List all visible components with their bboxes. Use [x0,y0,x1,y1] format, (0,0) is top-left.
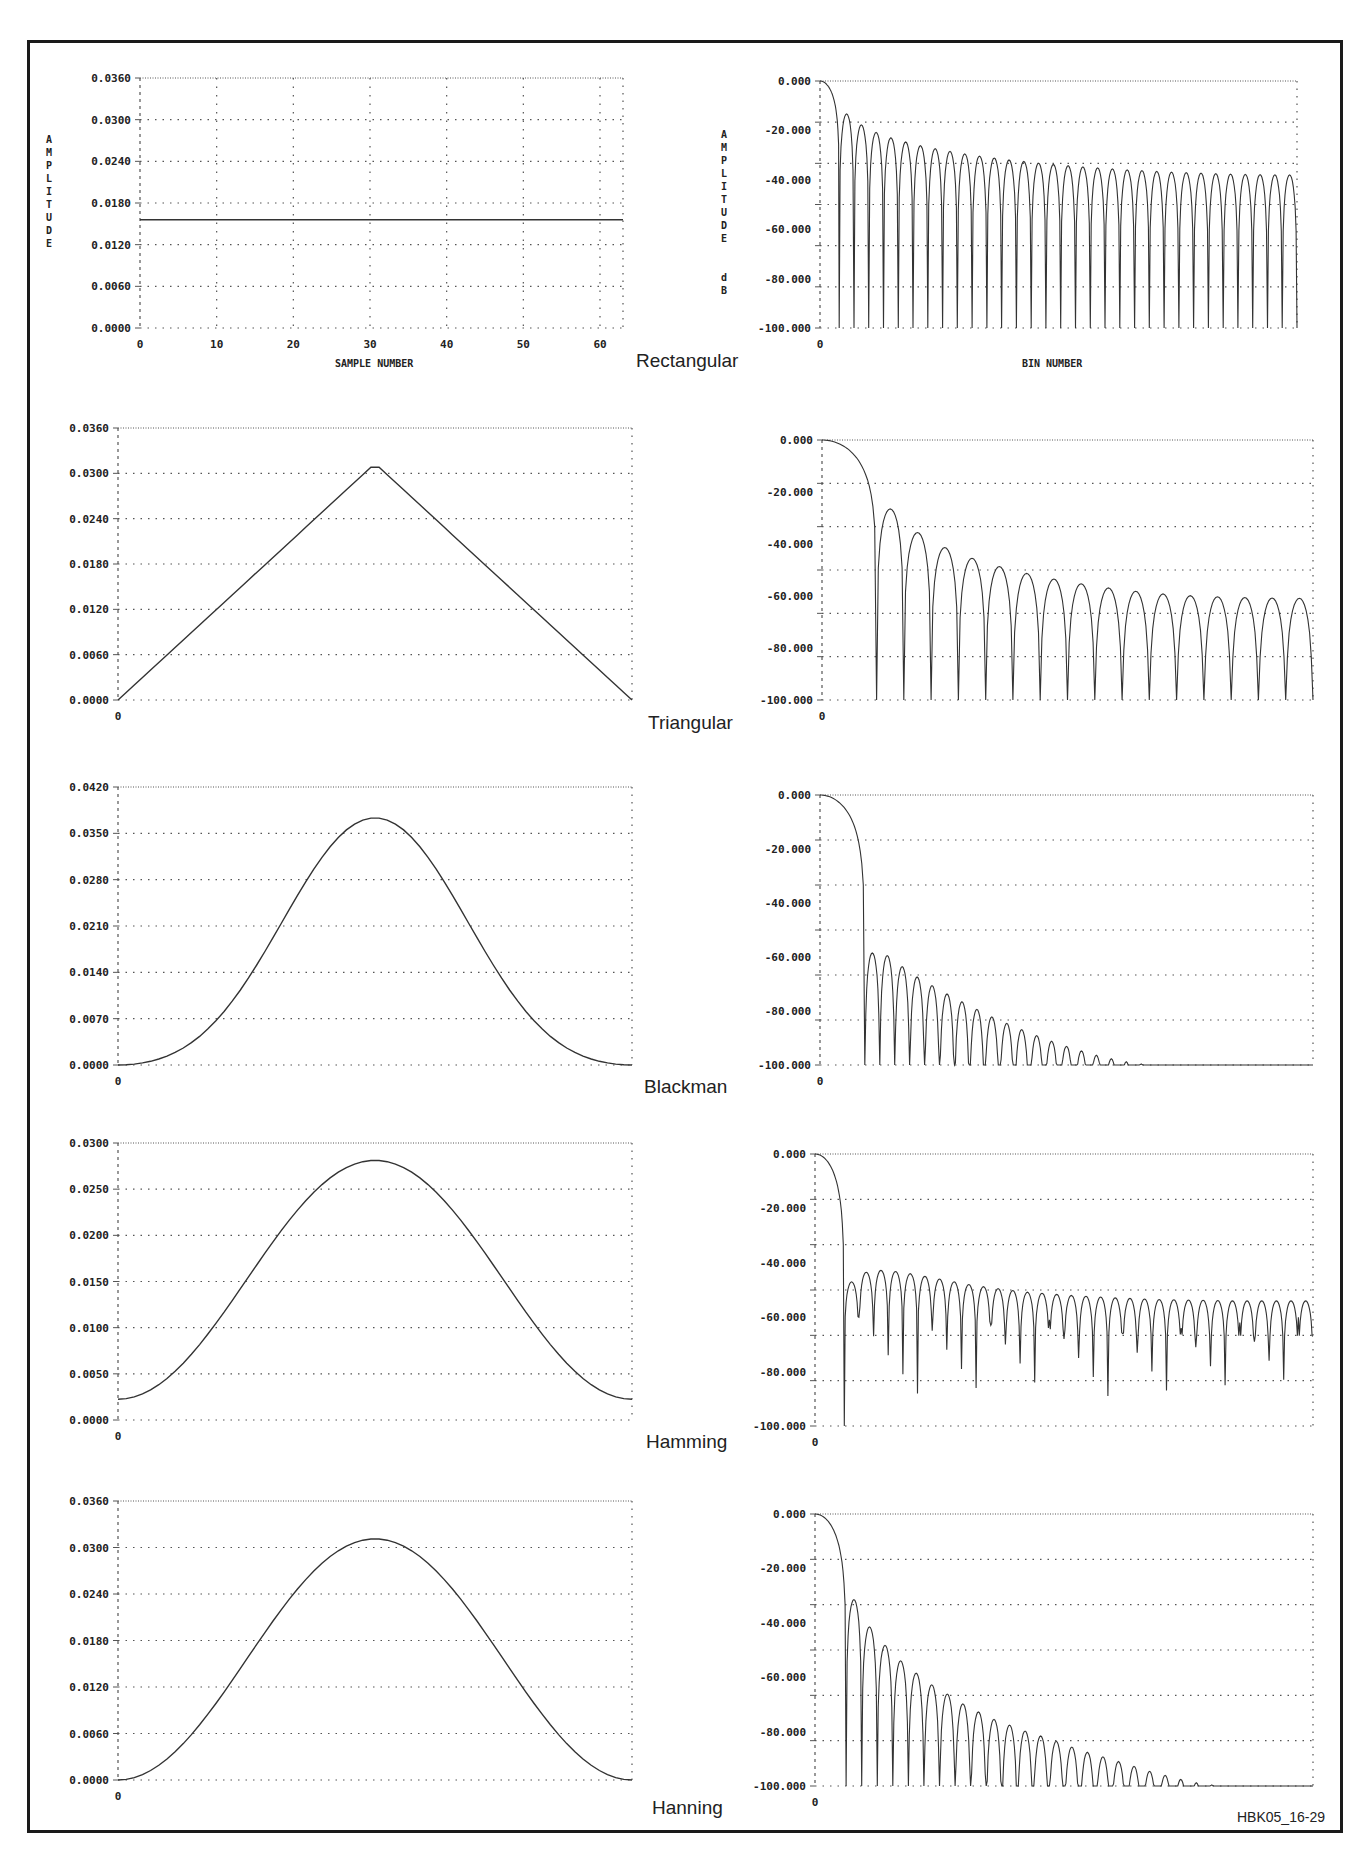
y-tick-label: 0.0210 [69,920,109,933]
y-tick-label: -60.000 [760,1311,806,1324]
y-tick-label: 0.0000 [69,1059,109,1072]
x-tick-label: 0 [812,1436,819,1449]
y-tick-label: 0.0300 [69,1137,109,1150]
window-curve [118,1161,632,1400]
x-tick-label: 0 [817,1075,824,1088]
y-tick-label: -20.000 [765,843,811,856]
y-tick-label: 0.000 [780,434,813,447]
spectrum-curve [820,81,1297,328]
y-tick-label: -80.000 [760,1726,806,1739]
y-tick-label: -80.000 [767,642,813,655]
y-tick-label: 0.000 [773,1148,806,1161]
x-axis-label-bin-number: BIN NUMBER [1022,358,1082,369]
y-tick-label: 0.0060 [91,280,131,293]
spectrum-plot-hamming: -100.000-80.000-60.000-40.000-20.0000.00… [753,1148,1313,1449]
y-tick-label: -20.000 [765,124,811,137]
y-tick-label: 0.0360 [69,422,109,435]
y-tick-label: 0.0300 [69,467,109,480]
y-tick-label: -80.000 [760,1366,806,1379]
y-tick-label: 0.0060 [69,649,109,662]
x-tick-label: 30 [363,338,376,351]
y-tick-label: 0.0000 [69,1774,109,1787]
spectrum-plot-hanning: -100.000-80.000-60.000-40.000-20.0000.00… [753,1508,1313,1809]
y-tick-label: 0.0070 [69,1013,109,1026]
x-tick-label: 0 [817,338,824,351]
y-tick-label: -100.000 [758,322,811,335]
window-curve [118,467,632,700]
y-tick-label: 0.0120 [69,603,109,616]
y-tick-label: -100.000 [753,1780,806,1793]
time-plot-hanning: 0.00000.00600.01200.01800.02400.03000.03… [69,1495,632,1803]
time-plot-hamming: 0.00000.00500.01000.01500.02000.02500.03… [69,1137,632,1443]
y-tick-label: -20.000 [760,1562,806,1575]
y-tick-label: 0.000 [773,1508,806,1521]
window-curve [118,818,632,1065]
y-tick-label: 0.0240 [91,155,131,168]
spectrum-curve [822,440,1313,700]
spectrum-curve [820,795,1313,1065]
time-plot-blackman: 0.00000.00700.01400.02100.02800.03500.04… [69,781,632,1088]
window-caption-hamming: Hamming [646,1431,727,1453]
x-tick-label: 0 [115,710,122,723]
window-function-plots: 0.00000.00600.01200.01800.02400.03000.03… [0,0,1361,1853]
y-tick-label: -100.000 [758,1059,811,1072]
x-tick-label: 20 [287,338,300,351]
x-tick-label: 10 [210,338,223,351]
spectrum-plot-blackman: -100.000-80.000-60.000-40.000-20.0000.00… [758,789,1313,1088]
y-tick-label: -20.000 [760,1202,806,1215]
y-tick-label: 0.0180 [69,1635,109,1648]
y-tick-label: -40.000 [765,174,811,187]
x-tick-label: 0 [115,1430,122,1443]
y-tick-label: -80.000 [765,273,811,286]
time-plot-rectangular: 0.00000.00600.01200.01800.02400.03000.03… [91,72,623,351]
y-tick-label: -100.000 [760,694,813,707]
spectrum-plot-triangular: -100.000-80.000-60.000-40.000-20.0000.00… [760,434,1313,723]
y-tick-label: 0.0300 [69,1542,109,1555]
window-caption-rectangular: Rectangular [636,350,738,372]
x-tick-label: 60 [593,338,606,351]
y-tick-label: 0.0050 [69,1368,109,1381]
y-tick-label: -100.000 [753,1420,806,1433]
x-tick-label: 50 [517,338,530,351]
x-tick-label: 0 [819,710,826,723]
y-axis-label-amplitude: A M P L I T U D E [43,133,55,250]
window-caption-triangular: Triangular [648,712,733,734]
y-tick-label: -40.000 [760,1257,806,1270]
x-tick-label: 0 [115,1075,122,1088]
y-tick-label: 0.0060 [69,1728,109,1741]
y-tick-label: 0.0300 [91,114,131,127]
y-tick-label: 0.0240 [69,1588,109,1601]
y-tick-label: 0.0000 [69,694,109,707]
y-tick-label: 0.000 [778,789,811,802]
y-tick-label: 0.0240 [69,513,109,526]
y-tick-label: -20.000 [767,486,813,499]
y-tick-label: 0.0140 [69,966,109,979]
window-caption-hanning: Hanning [652,1797,723,1819]
y-tick-label: -60.000 [760,1671,806,1684]
y-tick-label: 0.0180 [91,197,131,210]
y-tick-label: 0.0420 [69,781,109,794]
y-tick-label: 0.0250 [69,1183,109,1196]
y-tick-label: -60.000 [765,223,811,236]
x-tick-label: 40 [440,338,453,351]
y-tick-label: -40.000 [767,538,813,551]
y-tick-label: -60.000 [765,951,811,964]
y-tick-label: 0.0000 [69,1414,109,1427]
x-tick-label: 0 [137,338,144,351]
spectrum-plot-rectangular: -100.000-80.000-60.000-40.000-20.0000.00… [758,75,1297,351]
y-tick-label: 0.0360 [69,1495,109,1508]
time-plot-triangular: 0.00000.00600.01200.01800.02400.03000.03… [69,422,632,723]
y-tick-label: 0.0280 [69,874,109,887]
y-tick-label: 0.0360 [91,72,131,85]
y-tick-label: 0.000 [778,75,811,88]
y-tick-label: 0.0120 [69,1681,109,1694]
y-tick-label: -40.000 [760,1617,806,1630]
y-axis-label-amplitude-db: A M P L I T U D E d B [718,128,730,297]
y-tick-label: 0.0000 [91,322,131,335]
y-tick-label: -40.000 [765,897,811,910]
window-curve [118,1539,632,1780]
y-tick-label: 0.0350 [69,827,109,840]
y-tick-label: 0.0120 [91,239,131,252]
y-tick-label: -80.000 [765,1005,811,1018]
figure-id: HBK05_16-29 [1237,1809,1325,1825]
